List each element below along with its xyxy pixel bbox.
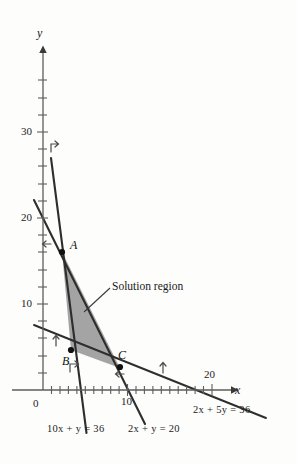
solution-region-leader-line <box>84 288 110 312</box>
vertex-point-A <box>59 249 65 255</box>
y-tick-label-10: 10 <box>21 298 32 309</box>
y-tick-label-20: 20 <box>21 212 32 223</box>
vertex-label-B: B <box>62 355 69 367</box>
equation-label-10x-y-36: 10x + y = 36 <box>47 424 104 435</box>
vertex-label-A: A <box>70 239 77 251</box>
vertex-label-C: C <box>118 349 126 361</box>
linear-programming-figure: y x 0 30 20 10 10 20 A B C Solution regi… <box>0 0 297 464</box>
direction-arrow-2x-y-20-upper <box>43 241 52 247</box>
direction-arrow-2x-5y-36-left <box>53 336 59 347</box>
direction-arrow-2x-5y-36-right <box>160 363 166 374</box>
equation-label-2x-5y-36: 2x + 5y = 36 <box>193 405 250 416</box>
x-tick-label-20: 20 <box>204 369 215 380</box>
vertex-point-C <box>117 364 123 370</box>
y-axis-label: y <box>37 27 42 39</box>
x-tick-label-10: 10 <box>121 396 132 407</box>
direction-arrow-10x-y-36-upper <box>51 141 59 152</box>
x-axis-label: x <box>235 384 240 396</box>
origin-label: 0 <box>33 398 39 409</box>
equation-label-2x-y-20: 2x + y = 20 <box>128 424 180 435</box>
y-tick-label-30: 30 <box>21 126 32 137</box>
vertex-point-B <box>68 347 74 353</box>
solution-region-label: Solution region <box>112 281 183 293</box>
plot-canvas <box>0 0 297 464</box>
